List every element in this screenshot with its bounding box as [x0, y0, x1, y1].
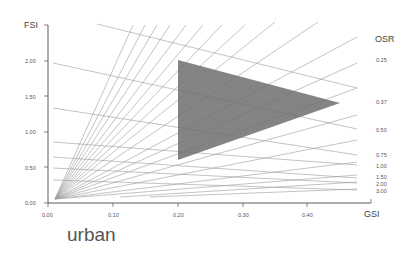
osr-tick: 2.00 [376, 181, 387, 187]
y-tick: 0.00 [25, 200, 36, 206]
x-tick: 0.00 [42, 212, 53, 218]
y-tick: 1.50 [25, 94, 36, 100]
y-tick: 1.00 [25, 129, 36, 135]
spacemate-chart: FSI 2.00 1.50 1.00 0.50 0.00 0.00 0.10 0… [0, 0, 413, 253]
x-tick: 0.10 [108, 212, 119, 218]
osr-tick: 3.00 [376, 188, 387, 194]
shaded-region [178, 60, 340, 160]
osr-tick: 0.25 [376, 57, 387, 63]
osr-tick: 0.37 [376, 99, 387, 105]
x-tick: 0.20 [173, 212, 184, 218]
y-axis-label: FSI [24, 20, 38, 30]
osr-tick: 0.75 [376, 152, 387, 158]
y-tick: 0.50 [25, 165, 36, 171]
osr-label: OSR [375, 34, 395, 44]
y-tick: 2.00 [25, 58, 36, 64]
osr-tick: 1.00 [376, 163, 387, 169]
x-axis-label: GSI [364, 209, 380, 219]
x-tick: 0.40 [302, 212, 313, 218]
osr-tick: 0.50 [376, 127, 387, 133]
x-tick: 0.30 [238, 212, 249, 218]
osr-tick: 1.50 [376, 174, 387, 180]
chart-caption: urban [67, 224, 116, 246]
